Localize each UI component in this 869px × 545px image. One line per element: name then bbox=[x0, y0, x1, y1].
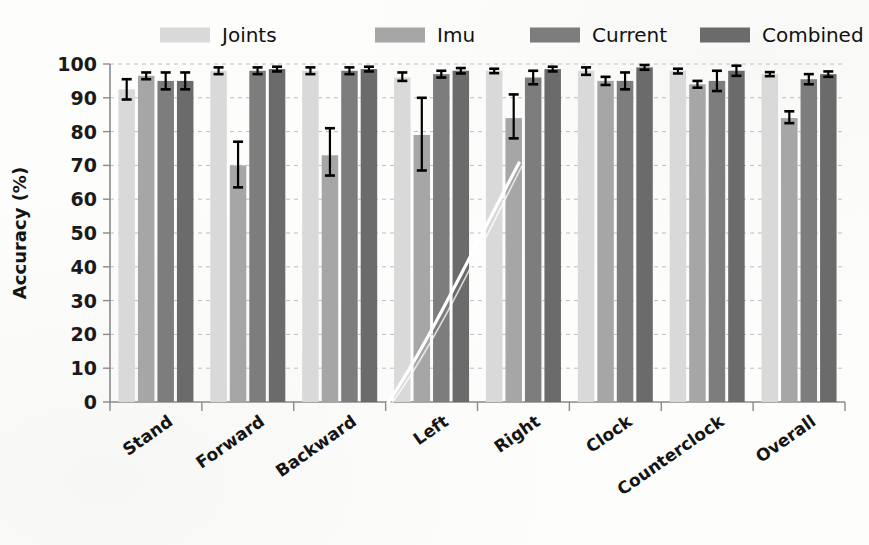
bar-joints-right bbox=[486, 71, 503, 402]
bar-imu-stand bbox=[138, 76, 155, 402]
bar-combined-forward bbox=[269, 69, 286, 402]
bar-current-counterclock bbox=[709, 81, 726, 402]
chart-legend: JointsImuCurrentCombined bbox=[160, 23, 864, 47]
legend-swatch-imu bbox=[375, 28, 425, 43]
bar-combined-overall bbox=[820, 74, 837, 402]
legend-label-current: Current bbox=[592, 23, 667, 47]
legend-swatch-combined bbox=[700, 28, 750, 43]
bar-imu-clock bbox=[597, 81, 614, 402]
legend-label-combined: Combined bbox=[762, 23, 864, 47]
bar-joints-overall bbox=[762, 74, 779, 402]
bar-combined-left bbox=[453, 71, 470, 402]
y-axis-title-group: Accuracy (%) bbox=[9, 167, 30, 299]
y-tick-label: 40 bbox=[71, 256, 97, 278]
bar-joints-left bbox=[394, 78, 411, 402]
legend-swatch-joints bbox=[160, 28, 210, 43]
bar-current-stand bbox=[157, 81, 174, 402]
y-tick-label: 20 bbox=[71, 323, 97, 345]
bar-imu-right bbox=[505, 118, 522, 402]
bar-combined-counterclock bbox=[728, 71, 745, 402]
bar-joints-counterclock bbox=[670, 71, 687, 402]
x-tick-label-clock: Clock bbox=[582, 411, 636, 457]
y-tick-label: 60 bbox=[71, 188, 97, 210]
y-tick-label: 10 bbox=[71, 357, 97, 379]
x-tick-label-backward: Backward bbox=[272, 411, 360, 481]
bar-combined-clock bbox=[636, 67, 653, 402]
bar-combined-right bbox=[544, 69, 561, 402]
figure-container: JointsImuCurrentCombined 010203040506070… bbox=[0, 0, 869, 545]
bar-combined-backward bbox=[361, 69, 378, 402]
x-tick-label-stand: Stand bbox=[119, 411, 176, 460]
y-tick-label: 30 bbox=[71, 290, 97, 312]
bar-current-clock bbox=[617, 81, 634, 402]
bar-joints-backward bbox=[302, 71, 319, 402]
bar-series-group bbox=[118, 67, 836, 402]
bar-current-left bbox=[433, 74, 450, 402]
x-tick-label-forward: Forward bbox=[192, 411, 268, 473]
x-tick-labels: StandForwardBackwardLeftRightClockCounte… bbox=[119, 411, 820, 500]
bar-current-backward bbox=[341, 71, 358, 402]
legend-swatch-current bbox=[530, 28, 580, 43]
y-tick-label: 70 bbox=[71, 154, 97, 176]
y-tick-label: 90 bbox=[71, 87, 97, 109]
y-tick-label: 0 bbox=[84, 391, 97, 413]
error-bars-group bbox=[122, 65, 834, 187]
legend-label-imu: Imu bbox=[437, 23, 475, 47]
bar-combined-stand bbox=[177, 81, 194, 402]
bar-imu-overall bbox=[781, 118, 798, 402]
bar-imu-left bbox=[414, 135, 431, 402]
bar-imu-backward bbox=[322, 155, 339, 402]
bar-joints-stand bbox=[118, 89, 135, 402]
bar-imu-forward bbox=[230, 165, 247, 402]
bar-joints-clock bbox=[578, 71, 595, 402]
bar-current-right bbox=[525, 78, 542, 402]
y-tick-label: 80 bbox=[71, 121, 97, 143]
bar-imu-counterclock bbox=[689, 84, 706, 402]
y-tick-label: 100 bbox=[57, 53, 97, 75]
bar-joints-forward bbox=[210, 71, 227, 402]
bar-chart: JointsImuCurrentCombined 010203040506070… bbox=[0, 0, 869, 545]
y-tick-label: 50 bbox=[71, 222, 97, 244]
y-tick-labels: 0102030405060708090100 bbox=[57, 53, 97, 413]
y-axis-title: Accuracy (%) bbox=[9, 167, 30, 299]
bar-current-forward bbox=[249, 71, 266, 402]
bar-current-overall bbox=[801, 79, 818, 402]
x-tick-label-overall: Overall bbox=[752, 411, 820, 467]
legend-label-joints: Joints bbox=[220, 23, 277, 47]
x-tick-label-left: Left bbox=[409, 411, 452, 449]
x-tick-label-right: Right bbox=[490, 411, 544, 457]
